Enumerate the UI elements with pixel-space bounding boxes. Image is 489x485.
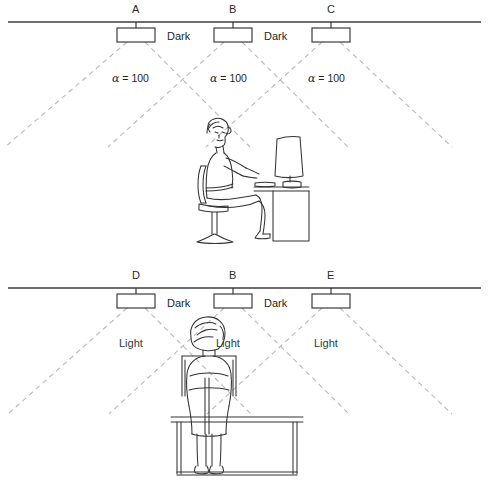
luminaire-label-C: C [327, 4, 335, 15]
beam-label-alpha-A: α = 100 [112, 73, 149, 84]
occupant-side-view [197, 118, 309, 243]
luminaire-label-D: D [132, 270, 140, 281]
beam-label-alpha-C: α = 100 [308, 73, 345, 84]
alpha-value-A: 100 [131, 72, 149, 84]
luminaire-E [312, 288, 350, 308]
luminaire-label-A: A [132, 4, 139, 15]
luminaire-B-upper [214, 22, 252, 42]
zone-label-dark-lower-1: Dark [167, 298, 190, 309]
lower-panel-graphics [8, 288, 481, 475]
beam-label-light-D: Light [119, 338, 143, 349]
alpha-value-B: 100 [229, 72, 247, 84]
alpha-value-C: 100 [327, 72, 345, 84]
alpha-equals-A: = [122, 72, 128, 84]
luminaire-A [117, 22, 155, 42]
beam-label-light-E: Light [314, 338, 338, 349]
alpha-symbol-B: α [210, 72, 217, 85]
alpha-equals-C: = [318, 72, 324, 84]
diagram-canvas: A B C Dark Dark α = 100 α = 100 α = 100 … [0, 0, 489, 485]
zone-label-dark-lower-2: Dark [264, 298, 287, 309]
luminaire-D [117, 288, 155, 308]
upper-panel-graphics [5, 22, 481, 244]
luminaire-B-lower [214, 288, 252, 308]
luminaire-label-B-upper: B [229, 4, 236, 15]
zone-label-dark-upper-1: Dark [167, 31, 190, 42]
luminaire-label-B-lower: B [229, 270, 236, 281]
alpha-equals-B: = [220, 72, 226, 84]
alpha-symbol-A: α [112, 72, 119, 85]
luminaire-label-E: E [327, 270, 334, 281]
beam-label-alpha-B: α = 100 [210, 73, 247, 84]
zone-label-dark-upper-2: Dark [264, 31, 287, 42]
alpha-symbol-C: α [308, 72, 315, 85]
luminaire-C [312, 22, 350, 42]
beam-label-light-B: Light [216, 338, 240, 349]
